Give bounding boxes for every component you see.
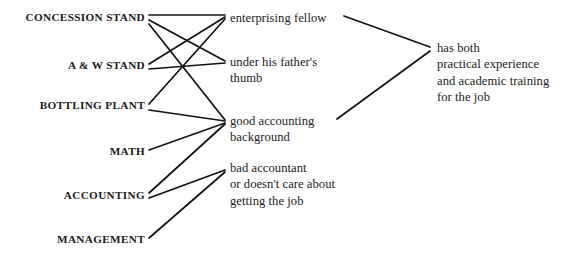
inference-node-enterprising: enterprising fellow xyxy=(230,10,326,26)
inference-node-badacct-line-0: bad accountant xyxy=(230,160,335,176)
inference-node-father-line-1: thumb xyxy=(230,70,317,86)
evidence-node-management-line-0: MANAGEMENT xyxy=(57,232,145,247)
conclusion-node-hasboth-line-1: practical experience xyxy=(437,56,549,72)
inference-node-goodacct-line-1: background xyxy=(230,129,314,145)
inference-node-father-line-0: under his father's xyxy=(230,54,317,70)
conclusion-node-hasboth-line-2: and academic training xyxy=(437,73,549,89)
edge-concession-to-father: e2 xyxy=(149,20,225,61)
evidence-node-accounting: ACCOUNTING xyxy=(64,188,145,203)
edge-math-to-goodacct: e8 xyxy=(149,123,225,150)
evidence-node-awstand: A & W STAND xyxy=(68,58,145,73)
evidence-node-management: MANAGEMENT xyxy=(57,232,145,247)
conclusion-node-hasboth-line-3: for the job xyxy=(437,89,549,105)
evidence-node-math: MATH xyxy=(110,144,145,159)
edge-awstand-to-father: e5 xyxy=(149,63,225,69)
evidence-node-awstand-line-0: A & W STAND xyxy=(68,58,145,73)
evidence-node-math-line-0: MATH xyxy=(110,144,145,159)
edge-goodacct-to-hasboth: e13 xyxy=(337,51,430,119)
inference-node-badacct-line-2: getting the job xyxy=(230,193,335,209)
edge-concession-to-goodacct: e3 xyxy=(149,24,225,120)
edge-management-to-badacct: e11 xyxy=(149,172,225,238)
edge-accounting-to-goodacct: e9 xyxy=(149,124,225,193)
edge-enterprising-to-hasboth: e12 xyxy=(344,16,430,47)
edge-awstand-to-enterprising: e4 xyxy=(149,17,225,64)
inference-node-badacct-line-1: or doesn't care about xyxy=(230,176,335,192)
edge-bottling-to-goodacct: e7 xyxy=(149,110,225,121)
evidence-node-concession: CONCESSION STAND xyxy=(26,10,145,25)
edge-accounting-to-badacct: e10 xyxy=(149,170,225,198)
inference-node-father: under his father'sthumb xyxy=(230,54,317,87)
conclusion-node-hasboth-line-0: has both xyxy=(437,40,549,56)
evidence-node-bottling-line-0: BOTTLING PLANT xyxy=(40,98,145,113)
evidence-node-concession-line-0: CONCESSION STAND xyxy=(26,10,145,25)
evidence-node-bottling: BOTTLING PLANT xyxy=(40,98,145,113)
conclusion-node-hasboth: has bothpractical experienceand academic… xyxy=(437,40,549,105)
evidence-node-accounting-line-0: ACCOUNTING xyxy=(64,188,145,203)
diagram-canvas: e1e2e3e4e5e6e7e8e9e10e11e12e13 CONCESSIO… xyxy=(0,0,587,259)
inference-node-goodacct: good accountingbackground xyxy=(230,113,314,146)
inference-node-enterprising-line-0: enterprising fellow xyxy=(230,10,326,26)
inference-node-goodacct-line-0: good accounting xyxy=(230,113,314,129)
inference-node-badacct: bad accountantor doesn't care aboutgetti… xyxy=(230,160,335,209)
edge-bottling-to-enterprising: e6 xyxy=(149,19,225,104)
